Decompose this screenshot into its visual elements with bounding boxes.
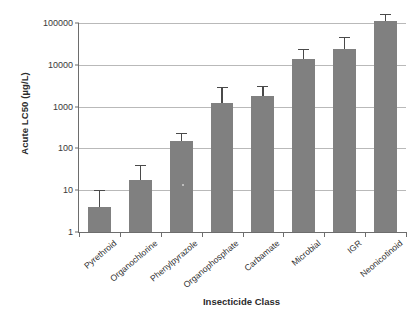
error-bar-stem <box>385 14 386 21</box>
error-bar-cap <box>217 87 228 88</box>
y-axis-tick-label: 1 <box>68 227 73 237</box>
error-bar-cap <box>380 14 391 15</box>
error-bar-cap <box>135 165 146 166</box>
x-axis-label-slot: Neonicotinoid <box>358 238 404 279</box>
x-axis-tick-mark <box>161 232 162 237</box>
x-axis-label-slot: Carbamate <box>243 238 282 273</box>
x-axis-tick-mark <box>283 232 284 237</box>
error-bar-cap <box>94 190 105 191</box>
x-axis-tick-mark <box>120 232 121 237</box>
x-axis-label-slot: Pyrethroid <box>82 238 118 271</box>
x-axis-tick-label: Neonicotinoid <box>358 238 404 279</box>
y-axis-tick-label: 1000 <box>53 102 73 112</box>
bar-group <box>161 23 202 232</box>
error-bar-stem <box>303 49 304 59</box>
error-bar-stem <box>99 190 100 207</box>
error-bar-stem <box>221 87 222 104</box>
bar-group <box>79 23 120 232</box>
y-axis-tick-label: 10 <box>63 185 73 195</box>
error-bar-cap <box>298 49 309 50</box>
bar <box>333 49 356 232</box>
x-axis-label-slot: Microbial <box>290 238 323 268</box>
error-bar-stem <box>344 37 345 48</box>
bar-group <box>283 23 324 232</box>
error-bar-stem <box>262 86 263 96</box>
x-axis-tick-label: Microbial <box>290 238 323 268</box>
bar <box>88 207 111 232</box>
bar <box>129 180 152 232</box>
x-axis-tick-mark <box>243 232 244 237</box>
x-axis-tick-label: IGR <box>345 238 363 255</box>
bar <box>374 21 397 232</box>
bar <box>170 141 193 232</box>
x-axis-tick-mark <box>202 232 203 237</box>
error-bar-stem <box>140 165 141 179</box>
x-axis-tick-mark <box>79 232 80 237</box>
bar <box>251 96 274 232</box>
scan-speck <box>182 184 184 186</box>
x-axis-tick-label: Pyrethroid <box>82 238 118 271</box>
bar-group <box>120 23 161 232</box>
bar-group <box>202 23 243 232</box>
x-axis-tick-mark <box>365 232 366 237</box>
error-bar-cap <box>176 133 187 134</box>
y-axis-tick-label: 100000 <box>43 18 73 28</box>
y-axis-title: Acute LC50 (µg/L) <box>19 24 30 204</box>
x-axis-label-slot: IGR <box>345 238 363 255</box>
bar <box>292 59 315 232</box>
error-bar-stem <box>181 133 182 141</box>
error-bar-cap <box>339 37 350 38</box>
bar-group <box>324 23 365 232</box>
x-axis-title: Insecticide Class <box>78 296 405 307</box>
x-axis-tick-label: Carbamate <box>243 238 282 273</box>
y-axis-tick-label: 10000 <box>48 60 73 70</box>
bar-chart-figure: Acute LC50 (µg/L) 100000100001000100101 … <box>0 0 413 316</box>
bar-group <box>243 23 284 232</box>
x-axis-tick-mark <box>324 232 325 237</box>
x-axis-tick-mark <box>406 232 407 237</box>
plot-area: 100000100001000100101 PyrethroidOrganoch… <box>78 23 406 233</box>
bar-group <box>365 23 406 232</box>
bar <box>211 103 234 232</box>
y-axis-tick-label: 100 <box>58 143 73 153</box>
error-bar-cap <box>257 86 268 87</box>
